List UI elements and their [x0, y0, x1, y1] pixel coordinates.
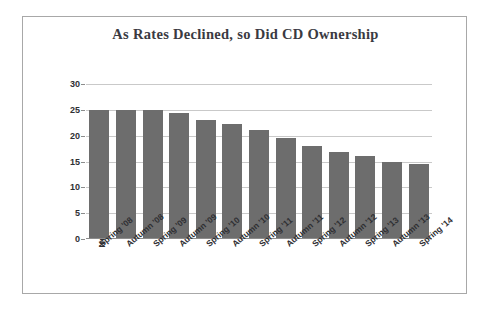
y-tick-mark [81, 213, 85, 214]
y-tick-label: 5 [54, 209, 80, 218]
y-tick-label: 15 [54, 158, 80, 167]
chart-title: As Rates Declined, so Did CD Ownership [0, 26, 491, 43]
y-tick-mark [81, 136, 85, 137]
y-tick-mark [81, 162, 85, 163]
y-tick-label: 25 [54, 106, 80, 115]
chart-page: As Rates Declined, so Did CD Ownership N… [0, 0, 491, 313]
y-tick-mark [81, 110, 85, 111]
x-tick-labels: Spring '08Autumn '08Spring '09Autumn '09… [86, 241, 446, 301]
y-tick-label: 10 [54, 183, 80, 192]
y-tick-mark [81, 187, 85, 188]
bar [89, 110, 109, 239]
y-tick-mark [81, 84, 85, 85]
y-tick-label: 20 [54, 132, 80, 141]
y-tick-label: 0 [54, 235, 80, 244]
y-tick-mark [81, 239, 85, 240]
y-tick-label: 30 [54, 80, 80, 89]
